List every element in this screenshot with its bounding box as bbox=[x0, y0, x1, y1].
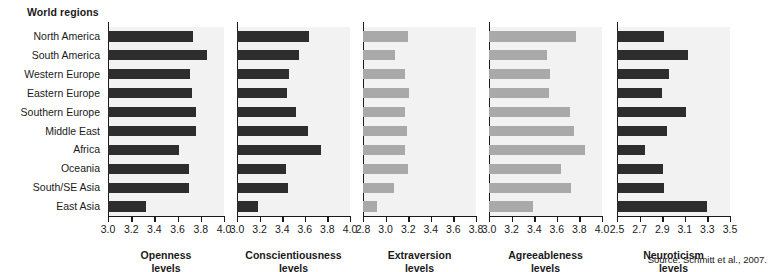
bar bbox=[108, 164, 189, 174]
bar bbox=[237, 183, 288, 193]
axis-tick bbox=[640, 216, 641, 222]
x-axis: 3.03.23.43.63.84.0 bbox=[108, 216, 224, 223]
axis-tick-label: 3.2 bbox=[252, 223, 267, 235]
bar-row bbox=[108, 27, 224, 46]
axis-tick-label: 2.5 bbox=[610, 223, 625, 235]
panel-neuroticism: 2.52.72.93.13.33.5Neuroticismlevels bbox=[617, 27, 730, 216]
panel-agreeableness: 3.03.23.43.63.84.0Agreeablenesslevels bbox=[489, 27, 602, 216]
axis-tick-label: 3.6 bbox=[446, 223, 461, 235]
x-axis: 2.83.03.23.43.63.8 bbox=[363, 216, 476, 223]
bar bbox=[237, 50, 299, 60]
bar-row bbox=[108, 65, 224, 84]
bar bbox=[108, 50, 207, 60]
bar-row bbox=[363, 46, 476, 65]
bar-row bbox=[363, 84, 476, 103]
axis-tick bbox=[662, 216, 663, 222]
axis-tick bbox=[579, 216, 580, 222]
bar-row bbox=[237, 27, 350, 46]
bar bbox=[617, 107, 686, 117]
bar bbox=[617, 31, 664, 41]
axis-tick-label: 3.4 bbox=[423, 223, 438, 235]
bar-row bbox=[617, 159, 730, 178]
bar bbox=[617, 201, 707, 211]
bar bbox=[489, 145, 585, 155]
x-axis: 2.52.72.93.13.33.5 bbox=[617, 216, 730, 223]
axis-title-openness: Opennesslevels bbox=[108, 249, 224, 272]
region-label: Eastern Europe bbox=[27, 84, 100, 103]
axis-tick bbox=[131, 216, 132, 222]
axis-tick bbox=[237, 216, 238, 222]
bar-row bbox=[237, 178, 350, 197]
axis-tick-label: 2.7 bbox=[632, 223, 647, 235]
x-axis-line bbox=[617, 216, 730, 217]
bar-row bbox=[108, 84, 224, 103]
axis-tick-label: 3.0 bbox=[378, 223, 393, 235]
bar-row bbox=[489, 197, 602, 216]
x-axis-line bbox=[108, 216, 224, 217]
bar bbox=[108, 145, 179, 155]
bar bbox=[237, 88, 287, 98]
x-axis: 3.03.23.43.63.84.0 bbox=[489, 216, 602, 223]
bar bbox=[617, 145, 645, 155]
axis-tick bbox=[305, 216, 306, 222]
bar-row bbox=[489, 27, 602, 46]
bar-row bbox=[617, 65, 730, 84]
bar bbox=[237, 69, 289, 79]
panel-openness: 3.03.23.43.63.84.0Opennesslevels bbox=[108, 27, 224, 216]
bar-row bbox=[108, 197, 224, 216]
axis-tick bbox=[557, 216, 558, 222]
axis-tick bbox=[534, 216, 535, 222]
bar bbox=[363, 164, 408, 174]
bar-row bbox=[108, 122, 224, 141]
axis-tick bbox=[363, 216, 364, 222]
bar-row bbox=[617, 197, 730, 216]
axis-title-line1: Agreeableness bbox=[489, 249, 602, 262]
bar bbox=[489, 31, 576, 41]
page-title: World regions bbox=[27, 6, 99, 18]
region-label: Africa bbox=[73, 140, 100, 159]
bar bbox=[617, 126, 667, 136]
axis-tick-label: 3.5 bbox=[723, 223, 738, 235]
panel-extraversion: 2.83.03.23.43.63.8Extraversionlevels bbox=[363, 27, 476, 216]
axis-tick bbox=[431, 216, 432, 222]
axis-title-line1: Conscientiousness bbox=[237, 249, 350, 262]
x-axis-line bbox=[363, 216, 476, 217]
axis-tick bbox=[154, 216, 155, 222]
axis-tick bbox=[178, 216, 179, 222]
region-label: South America bbox=[32, 46, 100, 65]
bar bbox=[237, 164, 286, 174]
bar bbox=[489, 164, 561, 174]
bar bbox=[363, 145, 405, 155]
bar bbox=[489, 201, 533, 211]
bar-row bbox=[489, 103, 602, 122]
axis-tick bbox=[602, 216, 603, 222]
bar bbox=[108, 88, 192, 98]
axis-tick bbox=[489, 216, 490, 222]
bar-row bbox=[108, 103, 224, 122]
axis-title-line1: Extraversion bbox=[363, 249, 476, 262]
axis-tick-label: 3.2 bbox=[124, 223, 139, 235]
bar bbox=[363, 183, 394, 193]
bar-row bbox=[108, 178, 224, 197]
bar-row bbox=[489, 122, 602, 141]
bar-row bbox=[108, 46, 224, 65]
bar bbox=[363, 126, 407, 136]
axis-tick-label: 3.8 bbox=[572, 223, 587, 235]
bar-row bbox=[489, 140, 602, 159]
axis-tick-label: 3.2 bbox=[401, 223, 416, 235]
axis-tick-label: 3.0 bbox=[482, 223, 497, 235]
axis-tick bbox=[617, 216, 618, 222]
axis-title-line2: levels bbox=[237, 262, 350, 272]
axis-tick-label: 3.8 bbox=[320, 223, 335, 235]
axis-tick bbox=[685, 216, 686, 222]
bar-row bbox=[237, 65, 350, 84]
bar bbox=[108, 126, 196, 136]
axis-tick bbox=[453, 216, 454, 222]
axis-tick bbox=[108, 216, 109, 222]
axis-tick-label: 3.6 bbox=[549, 223, 564, 235]
axis-tick-label: 3.2 bbox=[504, 223, 519, 235]
bar bbox=[108, 183, 189, 193]
source-note: Source: Schmitt et al., 2007. bbox=[648, 254, 767, 265]
bar bbox=[363, 69, 405, 79]
bar-row bbox=[363, 103, 476, 122]
